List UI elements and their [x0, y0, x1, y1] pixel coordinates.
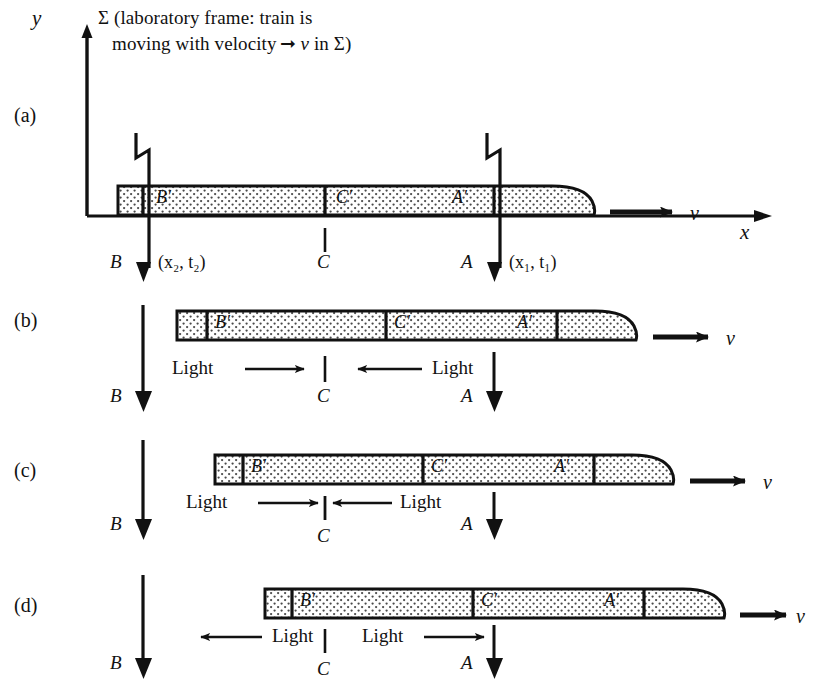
panel-a-train [118, 186, 595, 215]
panel-c-light-label-left: Light [400, 492, 441, 511]
panel-d-ground-mark-B: B [110, 653, 122, 672]
panel-d-ground-mark-A: A [461, 653, 473, 672]
velocity-inline-arrow-icon: ➞ [277, 32, 301, 56]
panel-b-train-mark-B: B′ [215, 313, 230, 331]
frame-caption-line2: moving with velocity➞v in Σ) [112, 32, 351, 56]
frame-caption-line2-tail: in Σ) [314, 33, 351, 54]
x-axis-label: x [740, 222, 749, 243]
panel-b-ground-mark-C: C [317, 386, 330, 405]
panel-b-arrow-B [135, 305, 152, 412]
panel-a-ground-mark-B: B [110, 252, 122, 271]
panel-b-arrow-A [486, 352, 503, 412]
panel-d-light-label-left: Light [272, 626, 313, 645]
panel-a-train-mark-B: B′ [156, 188, 171, 206]
panel-d-ground-mark-C: C [317, 659, 330, 678]
panel-d-arrow-A [486, 625, 503, 679]
panel-a-train-mark-A: A′ [452, 188, 467, 206]
panel-d-arrow-B [135, 575, 152, 679]
frame-caption-line2-text: moving with velocity [112, 33, 277, 54]
panel-b-train-mark-C: C′ [394, 313, 410, 331]
panel-label-d: (d) [14, 595, 37, 615]
panel-d-train-mark-A: A′ [604, 591, 619, 609]
panel-label-a: (a) [14, 105, 36, 125]
panel-b-ground-mark-B: B [110, 386, 122, 405]
panel-a-coord-A: (x₁, t₁) [509, 253, 557, 271]
panel-d-light-label-right: Light [362, 626, 403, 645]
panel-c-arrow-A [486, 492, 503, 540]
panel-c-light-label-right: Light [186, 492, 227, 511]
panel-b-light-label-right: Light [172, 358, 213, 377]
panel-a-coord-B: (x₂, t₂) [158, 253, 206, 271]
panel-c-velocity-label: v [763, 472, 772, 492]
panel-c-train-mark-A: A′ [554, 457, 569, 475]
panel-c-ground-mark-C: C [317, 526, 330, 545]
panel-d-train-mark-B: B′ [300, 591, 315, 609]
panel-b-ground-mark-A: A [461, 386, 473, 405]
panel-label-b: (b) [14, 310, 37, 330]
panel-c-train-mark-B: B′ [251, 457, 266, 475]
panel-a-velocity-label: v [690, 203, 699, 223]
panel-c-arrow-B [135, 440, 152, 540]
panel-b-velocity-label: v [726, 328, 735, 348]
frame-caption-line1: Σ (laboratory frame: train is [98, 6, 312, 30]
panel-b-train-mark-A: A′ [517, 313, 532, 331]
panel-a-train-mark-C: C′ [336, 188, 352, 206]
panel-c-ground-mark-A: A [461, 514, 473, 533]
panel-c-train-mark-C: C′ [431, 457, 447, 475]
panel-a-ground-mark-A: A [461, 252, 473, 271]
panel-b-light-label-left: Light [432, 358, 473, 377]
y-axis-label: y [32, 8, 41, 29]
relativity-simultaneity-figure: y Σ (laboratory frame: train is moving w… [0, 0, 817, 699]
panel-a-ground-mark-C: C [317, 252, 330, 271]
panel-d-train-mark-C: C′ [481, 591, 497, 609]
panel-d-velocity-label: v [796, 606, 805, 626]
panel-c-ground-mark-B: B [110, 514, 122, 533]
panel-label-c: (c) [14, 460, 36, 480]
figure-linework [0, 0, 817, 699]
velocity-symbol-inline: v [301, 33, 310, 54]
